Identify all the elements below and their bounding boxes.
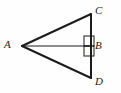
vertex-label-b: B bbox=[95, 40, 102, 51]
segment-AD bbox=[22, 46, 91, 78]
geometry-figure: A C B D bbox=[0, 0, 121, 93]
vertex-label-d: D bbox=[95, 76, 103, 87]
right-angle-mark-upper bbox=[84, 36, 94, 46]
vertex-label-c: C bbox=[95, 5, 102, 16]
right-angle-mark-lower bbox=[84, 46, 94, 56]
vertex-label-a: A bbox=[4, 39, 11, 50]
segment-AC bbox=[22, 14, 91, 46]
